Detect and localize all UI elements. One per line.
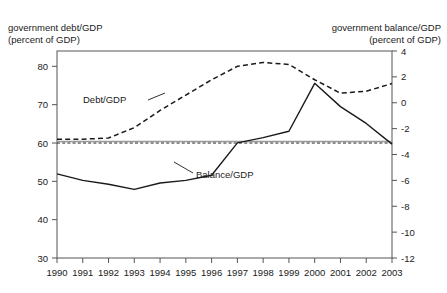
annotation-balance-gdp: Balance/GDP (196, 169, 254, 180)
right-tick-label: -4 (401, 149, 409, 160)
x-tick-label: 1995 (175, 267, 196, 278)
x-tick-label: 1992 (98, 267, 119, 278)
right-tick-label: -6 (401, 175, 409, 186)
left-tick-label: 70 (37, 99, 48, 110)
x-tick-label: 2000 (304, 267, 325, 278)
left-axis-ticks: 304050607080 (37, 61, 57, 264)
annotation-leader (174, 162, 193, 173)
right-tick-label: 4 (401, 46, 406, 57)
reference-lines (57, 142, 392, 143)
x-tick-label: 1998 (253, 267, 274, 278)
chart-figure: government debt/GDP(percent of GDP) gove… (0, 0, 447, 293)
right-tick-label: -12 (401, 253, 415, 264)
x-tick-label: 1991 (72, 267, 93, 278)
left-tick-label: 30 (37, 253, 48, 264)
left-tick-label: 60 (37, 138, 48, 149)
x-axis-ticks: 1990199119921993199419951996199719981999… (46, 258, 402, 278)
x-tick-label: 1994 (150, 267, 171, 278)
plot-border (57, 51, 392, 258)
left-tick-label: 80 (37, 61, 48, 72)
left-tick-label: 40 (37, 214, 48, 225)
right-tick-label: -2 (401, 123, 409, 134)
right-tick-label: -8 (401, 201, 409, 212)
right-tick-label: 0 (401, 97, 406, 108)
annotation-debt-gdp: Debt/GDP (83, 94, 126, 105)
x-tick-label: 1999 (278, 267, 299, 278)
x-tick-label: 1990 (46, 267, 67, 278)
left-tick-label: 50 (37, 176, 48, 187)
x-tick-label: 1993 (124, 267, 145, 278)
x-tick-label: 2002 (356, 267, 377, 278)
right-tick-label: -10 (401, 227, 415, 238)
right-axis-ticks: 420-2-4-6-8-10-12 (392, 46, 415, 264)
annotation-leader (148, 93, 165, 100)
x-tick-label: 1996 (201, 267, 222, 278)
right-tick-label: 2 (401, 71, 406, 82)
plot-area: 304050607080 420-2-4-6-8-10-12 199019911… (0, 0, 447, 293)
x-tick-label: 2003 (381, 267, 402, 278)
x-tick-label: 2001 (330, 267, 351, 278)
plot-frame (57, 51, 392, 258)
x-tick-label: 1997 (227, 267, 248, 278)
